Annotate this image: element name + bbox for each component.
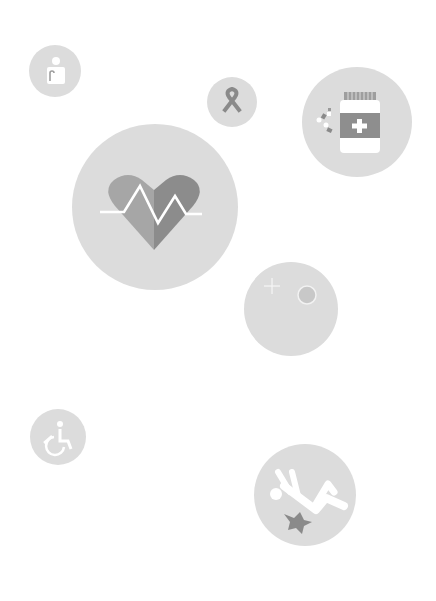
cell-icon <box>244 262 338 356</box>
heart-pulse-circle <box>72 124 238 290</box>
heart-pulse-icon <box>72 124 238 290</box>
wheelchair-circle <box>30 409 86 465</box>
elderly-person-icon <box>29 45 81 97</box>
awareness-ribbon-circle <box>207 77 257 127</box>
cell-circle <box>244 262 338 356</box>
medicine-bottle-circle <box>302 67 412 177</box>
awareness-ribbon-icon <box>207 77 257 127</box>
fall-injury-icon <box>254 444 356 546</box>
medicine-bottle-icon <box>302 67 412 177</box>
elderly-person-circle <box>29 45 81 97</box>
wheelchair-icon <box>30 409 86 465</box>
fall-injury-circle <box>254 444 356 546</box>
